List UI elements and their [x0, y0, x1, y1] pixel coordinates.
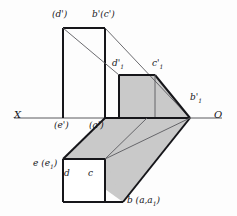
label-a-prime-parenthesized: (a') [89, 121, 104, 130]
label-c: c [88, 169, 93, 178]
label-d-prime-1-sub: 1 [120, 63, 124, 70]
label-b-prime-1-sub: 1 [198, 97, 202, 104]
projection-drawing [0, 0, 237, 216]
label-d-prime-1: d'1 [112, 59, 124, 70]
label-c-prime-1: c'1 [152, 59, 163, 70]
figure-canvas: X O (d') b'(c') d'1 c'1 b'1 (e') (a') e … [0, 0, 237, 216]
label-b-a-a1: b (a,a1) [127, 196, 160, 207]
label-e-prime-parenthesized: (e') [54, 121, 69, 130]
label-c-prime-1-text: c' [152, 58, 160, 68]
label-d-prime-parenthesized: (d') [52, 10, 67, 19]
front-view-tall-rectangle [63, 28, 119, 118]
label-c-prime-1-sub: 1 [160, 63, 164, 70]
label-b-a-a1-suffix: ) [157, 195, 161, 205]
axis-label-o: O [214, 110, 222, 120]
label-e-e1-text: e (e [33, 158, 50, 168]
label-d: d [64, 169, 70, 178]
front-view-shaded-trapezoid [119, 75, 190, 118]
label-e-e1: e (e1) [33, 159, 57, 170]
label-d-prime-1-text: d' [112, 58, 120, 68]
prism-front-square-face [63, 159, 105, 202]
label-b-prime-1: b'1 [190, 93, 202, 104]
label-b-a-a1-text: b (a,a [127, 195, 153, 205]
label-b-prime-c-prime: b'(c') [92, 10, 115, 19]
axis-label-x: X [14, 110, 21, 120]
label-e-e1-suffix: ) [54, 158, 58, 168]
thin-projection-diagonal-d [63, 28, 119, 75]
label-b-prime-1-text: b' [190, 92, 198, 102]
